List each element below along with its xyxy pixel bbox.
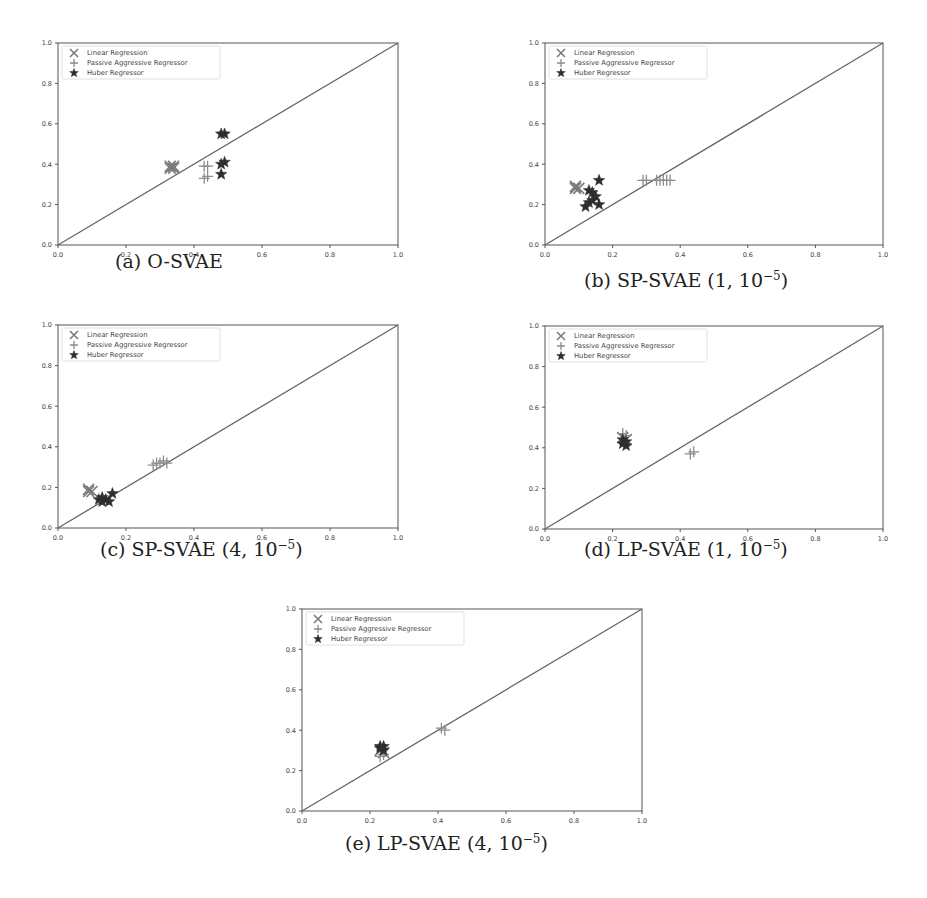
y-tick-label: 0.0 [286, 807, 296, 815]
subplot-caption: (a) O-SVAE [115, 250, 223, 272]
y-tick-label: 1.0 [286, 605, 296, 613]
caption-suffix: ) [780, 538, 787, 560]
x-tick-label: 0.4 [433, 817, 443, 825]
x-tick-label: 0.0 [297, 817, 307, 825]
subplot-caption: (d) LP-SVAE (1, 10−5) [584, 538, 788, 560]
caption-exponent: −5 [523, 832, 541, 846]
caption-exponent: −5 [278, 538, 296, 552]
x-tick-label: 0.2 [365, 817, 375, 825]
legend-label: Linear Regression [331, 615, 391, 623]
subplot-caption: (b) SP-SVAE (1, 10−5) [584, 269, 788, 291]
caption-suffix: ) [295, 538, 302, 560]
caption-text: (a) O-SVAE [115, 250, 223, 272]
x-tick-label: 0.6 [501, 817, 511, 825]
y-tick-label: 0.4 [286, 727, 296, 735]
series-passive-aggressive-regressor [375, 723, 451, 762]
caption-suffix: ) [540, 832, 547, 854]
legend-label: Huber Regressor [331, 635, 388, 643]
caption-text: (b) SP-SVAE (1, 10 [584, 269, 763, 291]
x-tick-label: 1.0 [637, 817, 647, 825]
subplot-caption: (e) LP-SVAE (4, 10−5) [345, 832, 548, 854]
scatter-plot: 0.00.20.40.60.81.00.00.20.40.60.81.0Line… [0, 0, 927, 898]
legend: Linear RegressionPassive Aggressive Regr… [306, 612, 464, 645]
y-tick-label: 0.6 [286, 686, 296, 694]
y-tick-label: 0.8 [286, 646, 296, 654]
legend-label: Passive Aggressive Regressor [331, 625, 432, 633]
y-tick-label: 0.2 [286, 767, 296, 775]
x-tick-label: 0.8 [569, 817, 579, 825]
subplot-caption: (c) SP-SVAE (4, 10−5) [100, 538, 303, 560]
caption-text: (e) LP-SVAE (4, 10 [345, 832, 523, 854]
caption-exponent: −5 [763, 538, 781, 552]
caption-exponent: −5 [763, 269, 781, 283]
caption-text: (c) SP-SVAE (4, 10 [100, 538, 278, 560]
caption-text: (d) LP-SVAE (1, 10 [584, 538, 763, 560]
caption-suffix: ) [781, 269, 788, 291]
